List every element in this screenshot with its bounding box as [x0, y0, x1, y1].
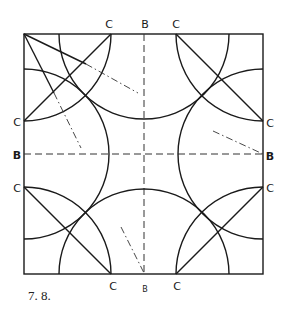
label-top-b: B	[141, 18, 149, 31]
construction-line-1-solid	[24, 34, 86, 64]
construction-line-2-solid	[24, 34, 54, 93]
label-right-c-top: C	[266, 117, 274, 130]
figure-caption: 7. 8.	[28, 288, 51, 303]
label-left-c-bottom: C	[13, 182, 21, 195]
bottom-right-chord	[176, 187, 263, 274]
label-right-c-bottom: C	[266, 182, 274, 195]
label-left-c-top: C	[13, 116, 21, 129]
label-bottom-b: B	[142, 285, 148, 294]
label-left-b: B	[13, 149, 21, 162]
label-top-c-left: C	[105, 18, 113, 31]
construction-line-1-dashdot	[86, 64, 138, 93]
right-dashdot-line	[213, 131, 263, 154]
bottom-dashdot-line	[121, 227, 144, 273]
label-top-c-right: C	[172, 18, 180, 31]
top-left-chord	[24, 34, 111, 121]
bottom-left-chord	[24, 187, 111, 274]
construction-line-2-dashdot	[54, 93, 81, 148]
top-right-chord	[176, 34, 263, 121]
label-right-b: B	[266, 150, 274, 163]
label-bottom-c-right: C	[173, 280, 181, 293]
label-bottom-c-left: C	[109, 280, 117, 293]
geometric-construction-diagram: C B C C B C C B C C B C 7. 8.	[0, 0, 287, 312]
